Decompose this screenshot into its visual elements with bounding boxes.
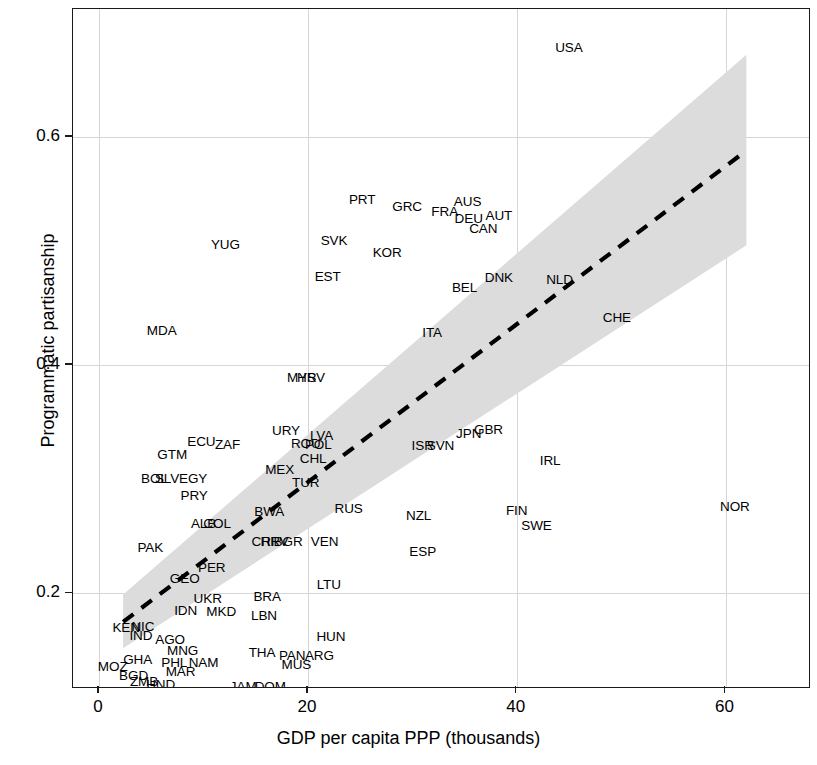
data-point-egy: EGY — [179, 473, 207, 487]
data-point-can: CAN — [469, 223, 497, 237]
data-point-ind: IND — [129, 629, 152, 643]
x-tick-1 — [306, 686, 308, 693]
data-point-mda: MDA — [147, 324, 177, 338]
data-point-pry: PRY — [180, 490, 207, 504]
data-point-lbn: LBN — [251, 609, 277, 623]
data-point-gbr: GBR — [474, 423, 503, 437]
data-point-ven: VEN — [311, 535, 338, 549]
data-point-idn: IDN — [174, 604, 197, 618]
data-point-hun: HUN — [316, 630, 345, 644]
data-point-nld: NLD — [546, 273, 573, 287]
data-point-dnk: DNK — [485, 272, 513, 286]
data-point-hrv: HRV — [297, 371, 325, 385]
x-tick-0 — [97, 686, 99, 693]
data-point-bel: BEL — [452, 281, 477, 295]
data-point-dom: DOM — [255, 680, 286, 688]
data-point-fin: FIN — [506, 504, 527, 518]
data-point-nzl: NZL — [406, 509, 431, 523]
data-point-geo: GEO — [170, 572, 200, 586]
x-tick-2 — [515, 686, 517, 693]
data-point-irl: IRL — [540, 454, 561, 468]
x-tick-label-3: 60 — [715, 697, 734, 717]
data-point-rus: RUS — [334, 502, 362, 516]
y-tick-1 — [65, 363, 72, 365]
data-point-che: CHE — [603, 312, 631, 326]
data-point-pak: PAK — [137, 541, 163, 555]
data-point-ita: ITA — [422, 326, 442, 340]
x-tick-3 — [724, 686, 726, 693]
data-point-ecu: ECU — [187, 435, 215, 449]
data-point-usa: USA — [555, 41, 582, 55]
data-point-nor: NOR — [720, 500, 750, 514]
y-tick-0 — [65, 592, 72, 594]
y-tick-2 — [65, 135, 72, 137]
data-point-tha: THA — [249, 646, 276, 660]
scatter-figure: USAPRTGRCAUSFRADEUAUTCANSVKYUGKORESTDNKN… — [0, 0, 817, 765]
data-point-ltu: LTU — [317, 579, 341, 593]
data-point-pol: POL — [305, 438, 332, 452]
data-point-bwa: BWA — [254, 506, 284, 520]
data-point-bgr: BGR — [274, 535, 303, 549]
data-point-prt: PRT — [349, 193, 375, 207]
data-point-svn: SVN — [427, 439, 454, 453]
plot-area: USAPRTGRCAUSFRADEUAUTCANSVKYUGKORESTDNKN… — [72, 8, 810, 688]
data-point-zaf: ZAF — [215, 438, 240, 452]
data-point-per: PER — [198, 562, 225, 576]
data-point-gha: GHA — [123, 653, 152, 667]
data-point-slv: SLV — [155, 473, 179, 487]
data-point-yug: YUG — [211, 239, 240, 253]
data-point-gtm: GTM — [157, 449, 187, 463]
data-point-est: EST — [315, 270, 341, 284]
data-point-nga: NGA — [134, 686, 163, 688]
data-point-ner: NER — [102, 686, 130, 688]
y-axis-title: Programmatic partisanship — [38, 61, 59, 621]
data-point-mus: MUS — [282, 659, 312, 673]
data-point-swe: SWE — [521, 519, 551, 533]
data-point-mex: MEX — [265, 463, 294, 477]
x-tick-label-1: 20 — [297, 697, 316, 717]
data-point-jam: JAM — [230, 680, 257, 688]
data-point-esp: ESP — [409, 546, 436, 560]
data-point-mkd: MKD — [206, 605, 236, 619]
x-tick-label-2: 40 — [506, 697, 525, 717]
data-point-aut: AUT — [486, 209, 513, 223]
data-point-grc: GRC — [392, 200, 422, 214]
x-axis-title: GDP per capita PPP (thousands) — [0, 728, 817, 749]
x-tick-label-0: 0 — [93, 697, 102, 717]
data-point-col: COL — [203, 517, 230, 531]
data-point-tur: TUR — [292, 476, 319, 490]
data-point-bra: BRA — [253, 590, 280, 604]
data-point-kor: KOR — [373, 247, 402, 261]
data-point-svk: SVK — [321, 234, 348, 248]
data-point-chl: CHL — [300, 452, 327, 466]
